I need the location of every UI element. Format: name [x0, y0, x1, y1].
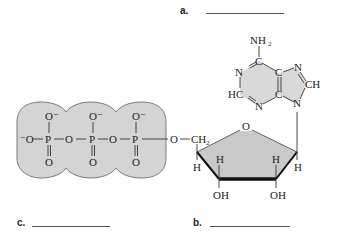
- bridge-oxygen-1: O: [65, 133, 73, 145]
- phosphate-3-bottom-oxygen: O: [132, 156, 140, 168]
- phosphate-2-bottom-oxygen: O: [89, 156, 97, 168]
- atom-c8: CH: [305, 78, 320, 90]
- phosphate-1-top-oxygen: O⁻: [45, 110, 59, 122]
- ch2-group: CH: [191, 133, 206, 145]
- blank-c-label: c.: [17, 217, 25, 228]
- amine-group: NH: [250, 34, 266, 46]
- atom-c2: HC: [228, 88, 243, 100]
- atom-n1: N: [235, 66, 243, 78]
- blank-a-line[interactable]: [206, 13, 284, 14]
- atom-n9: N: [293, 97, 301, 109]
- blank-b-line[interactable]: [210, 226, 290, 227]
- hydrogen-c1: H: [294, 161, 302, 173]
- hydroxyl-c2: OH: [270, 189, 286, 201]
- blank-b-label: b.: [193, 217, 202, 228]
- bridge-oxygen-2: O: [109, 133, 117, 145]
- atom-c4: C: [275, 88, 282, 100]
- phosphate-1-bottom-oxygen: O: [45, 156, 53, 168]
- phosphate-2-top-oxygen: O⁻: [89, 110, 103, 122]
- ribose-sugar: O H H OH H OH H: [193, 120, 302, 201]
- triphosphate-group: ⁻O P O⁻ O O P O⁻ O O P O⁻ O: [17, 102, 168, 178]
- atom-n3: N: [255, 100, 263, 112]
- atom-c5: C: [275, 66, 282, 78]
- atom-n7: N: [294, 61, 302, 73]
- terminal-oxygen: ⁻O: [20, 133, 34, 145]
- atp-structure-diagram: ⁻O P O⁻ O O P O⁻ O O P O⁻ O O CH 2 O H H…: [0, 0, 340, 241]
- ester-oxygen: O: [170, 133, 178, 145]
- phosphate-3-top-oxygen: O⁻: [132, 110, 146, 122]
- atom-c6: C: [255, 55, 262, 67]
- hydroxyl-c3: OH: [213, 189, 229, 201]
- hydrogen-c3: H: [216, 153, 224, 165]
- phosphorus-2: P: [89, 133, 95, 145]
- amine-subscript: 2: [268, 40, 272, 48]
- hydrogen-c2: H: [272, 153, 280, 165]
- blank-a-label: a.: [180, 5, 188, 16]
- adenine-base: NH 2 C N HC N C C N CH N: [228, 34, 320, 112]
- hydrogen-c4: H: [193, 161, 201, 173]
- phosphorus-1: P: [45, 133, 51, 145]
- blank-c-line[interactable]: [32, 226, 110, 227]
- ring-oxygen: O: [242, 120, 250, 132]
- phosphorus-3: P: [132, 133, 138, 145]
